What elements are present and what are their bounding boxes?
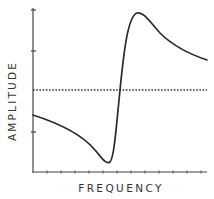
chart: AMPLITUDE FREQUENCY	[0, 0, 214, 199]
x-axis-label: FREQUENCY	[78, 182, 164, 194]
y-axis-label: AMPLITUDE	[6, 61, 18, 141]
plot-area	[0, 0, 214, 199]
amplitude-curve	[33, 13, 207, 163]
